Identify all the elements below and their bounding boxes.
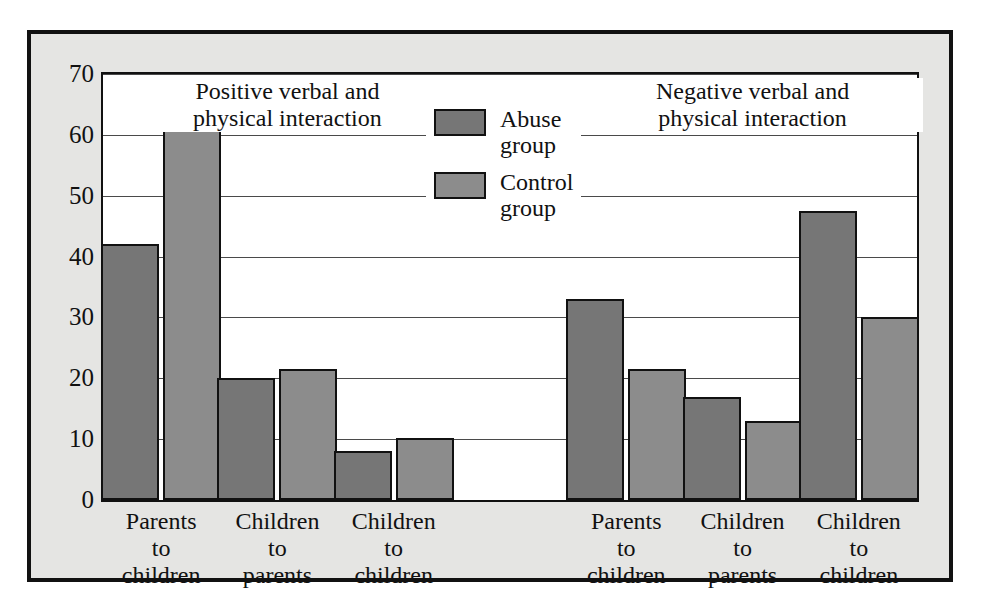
y-axis-tick-40: 40 (69, 243, 94, 271)
bar-abuse (101, 244, 159, 500)
plot-area: 010203040506070Positive verbal andphysic… (101, 72, 919, 502)
legend-label-line: Abuse (500, 106, 561, 132)
legend-swatch-abuse (434, 109, 486, 136)
x-axis-category-label: Childrentoparents (219, 508, 335, 589)
panel-title-line: Positive verbal and (127, 78, 447, 105)
legend-label: Abusegroup (500, 106, 561, 159)
x-axis-category-line: Children (336, 508, 452, 535)
legend-item: Controlgroup (434, 169, 573, 222)
bar-control (745, 421, 803, 500)
x-axis-category-label: Parentstochildren (103, 508, 219, 589)
x-axis-category-line: to (219, 535, 335, 562)
bar-abuse (683, 397, 741, 500)
legend-label-line: group (500, 195, 573, 221)
panel-title: Negative verbal andphysical interaction (583, 78, 923, 132)
panel-title-line: physical interaction (127, 105, 447, 132)
gridline-70 (103, 74, 917, 75)
x-axis-category-line: Children (219, 508, 335, 535)
x-axis-category-line: children (568, 562, 684, 589)
x-axis-category-line: to (103, 535, 219, 562)
x-axis-category-line: to (568, 535, 684, 562)
x-axis-category-label: Childrentochildren (336, 508, 452, 589)
legend-label-line: Control (500, 169, 573, 195)
legend: AbusegroupControlgroup (426, 104, 581, 234)
x-axis-category-line: children (103, 562, 219, 589)
legend-swatch-control (434, 172, 486, 199)
gridline-40 (103, 257, 917, 258)
x-axis-category-line: to (336, 535, 452, 562)
y-axis-tick-0: 0 (82, 486, 95, 514)
y-axis-tick-10: 10 (69, 425, 94, 453)
x-axis-category-line: parents (219, 562, 335, 589)
bar-control (861, 317, 919, 500)
x-axis-category-line: Children (801, 508, 917, 535)
panel-title-line: Negative verbal and (593, 78, 913, 105)
legend-label-line: group (500, 132, 561, 158)
bar-abuse (799, 211, 857, 500)
gridline-30 (103, 317, 917, 318)
panel-title-line: physical interaction (593, 105, 913, 132)
bar-control (628, 369, 686, 500)
bar-control (396, 438, 454, 500)
x-axis-category-line: to (801, 535, 917, 562)
y-axis-tick-20: 20 (69, 364, 94, 392)
bar-control (279, 369, 337, 500)
panel-title: Positive verbal andphysical interaction (117, 78, 457, 132)
x-axis-category-line: Parents (103, 508, 219, 535)
x-axis-category-line: children (801, 562, 917, 589)
bar-abuse (217, 378, 275, 500)
bar-abuse (334, 451, 392, 500)
chart-figure: 010203040506070Positive verbal andphysic… (27, 30, 953, 582)
y-axis-tick-70: 70 (69, 60, 94, 88)
y-axis-tick-50: 50 (69, 182, 94, 210)
x-axis-category-line: children (336, 562, 452, 589)
bar-abuse (566, 299, 624, 500)
legend-label: Controlgroup (500, 169, 573, 222)
x-axis-category-line: Parents (568, 508, 684, 535)
x-axis-category-line: parents (684, 562, 800, 589)
plot-inner: 010203040506070Positive verbal andphysic… (103, 74, 917, 500)
bar-control (163, 126, 221, 500)
y-axis-tick-30: 30 (69, 303, 94, 331)
y-axis-tick-60: 60 (69, 121, 94, 149)
x-axis-category-label: Childrentoparents (684, 508, 800, 589)
legend-item: Abusegroup (434, 106, 573, 159)
x-axis-category-label: Parentstochildren (568, 508, 684, 589)
x-axis-category-label: Childrentochildren (801, 508, 917, 589)
x-axis-category-line: to (684, 535, 800, 562)
x-axis-category-line: Children (684, 508, 800, 535)
